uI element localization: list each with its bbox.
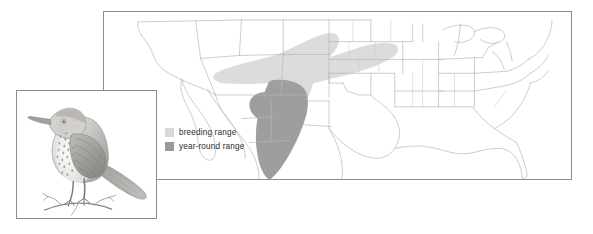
legend-item-breeding: breeding range xyxy=(165,127,244,138)
figure-root: breeding range year-round range xyxy=(0,0,593,234)
range-legend: breeding range year-round range xyxy=(165,127,244,152)
year-round-range-swatch xyxy=(165,142,174,151)
perch-branch xyxy=(43,193,116,215)
year-round-range-label: year-round range xyxy=(179,142,244,151)
north-america-map-svg xyxy=(104,12,571,179)
political-boundaries xyxy=(138,20,552,179)
bird-drawing xyxy=(28,108,146,215)
year-round-range-shape xyxy=(249,80,308,179)
breeding-range-label: breeding range xyxy=(179,128,236,137)
breeding-range-swatch xyxy=(165,128,174,137)
bird-illustration-panel xyxy=(16,90,157,219)
thrasher-illustration xyxy=(17,91,156,218)
range-map-panel: breeding range year-round range xyxy=(103,11,572,180)
legend-item-year-round: year-round range xyxy=(165,141,244,152)
